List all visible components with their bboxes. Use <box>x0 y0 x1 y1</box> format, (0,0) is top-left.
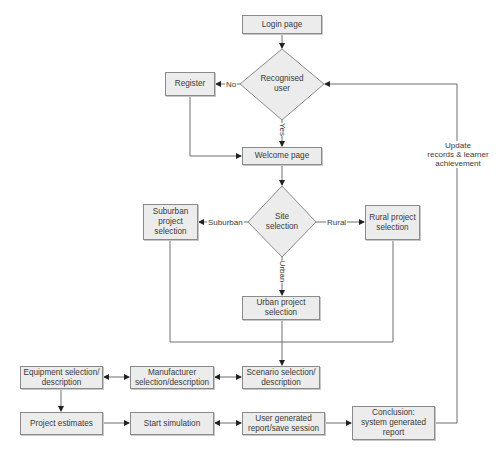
edge-label-no: No <box>225 80 237 89</box>
login-page-node: Login page <box>242 15 322 34</box>
conclusion-report-node: Conclusion: system generated report <box>352 406 435 440</box>
equipment-selection-node: Equipment selection/ description <box>20 366 103 389</box>
scenario-selection-node: Scenario selection/ description <box>242 366 320 389</box>
flowchart-canvas: Login page Register Welcome page Suburba… <box>0 0 504 455</box>
start-simulation-node: Start simulation <box>130 412 214 435</box>
edge-label-suburban: Suburban <box>207 218 244 227</box>
site-selection-label: Site selection <box>254 212 310 232</box>
edge-label-update-records: Update records & learner achievement <box>426 141 490 168</box>
manufacturer-selection-node: Manufacturer selection/description <box>130 366 214 389</box>
edge-label-urban: Urban <box>278 261 287 283</box>
register-node: Register <box>165 72 215 96</box>
user-generated-report-node: User generated report/save session <box>242 412 325 435</box>
welcome-page-node: Welcome page <box>242 147 322 165</box>
edge-label-rural: Rural <box>326 218 347 227</box>
recognised-user-label: Recognised user <box>250 74 314 94</box>
rural-project-node: Rural project selection <box>365 205 420 240</box>
project-estimates-node: Project estimates <box>20 412 103 435</box>
urban-project-node: Urban project selection <box>242 296 320 320</box>
suburban-project-node: Suburban project selection <box>143 204 198 240</box>
edge-label-yes: Yes <box>278 123 287 136</box>
